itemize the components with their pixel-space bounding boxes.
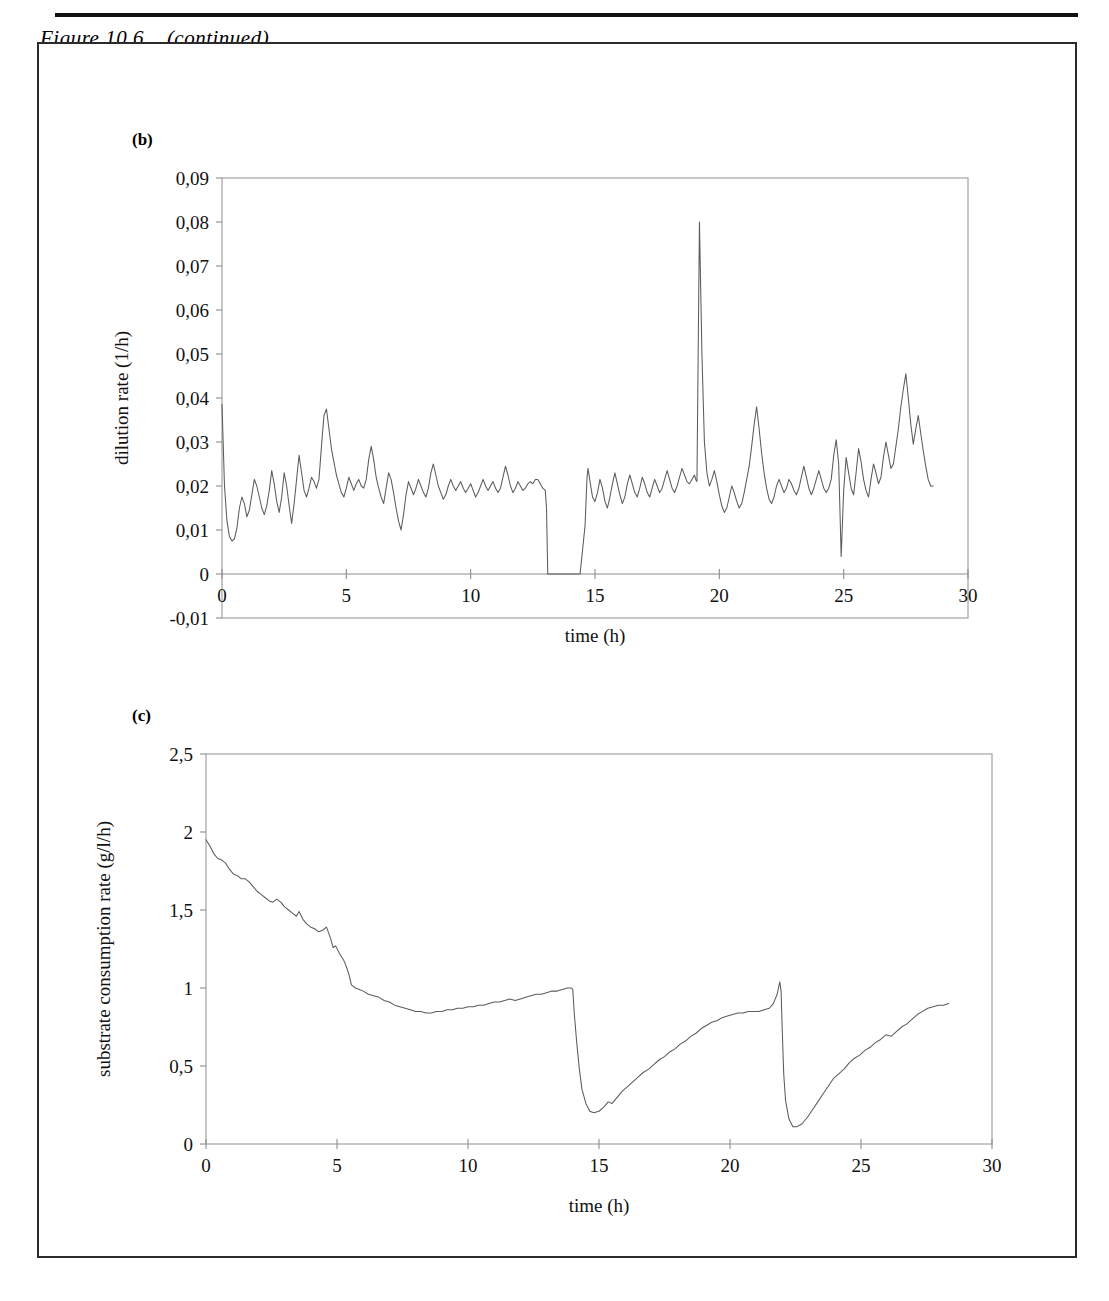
x-tick-label: 20: [710, 585, 729, 606]
x-tick-label: 30: [983, 1155, 1002, 1176]
x-tick-label: 25: [852, 1155, 871, 1176]
y-tick-label: 1: [184, 978, 194, 999]
y-tick-label: 0,06: [176, 300, 209, 321]
header-rule: [55, 13, 1078, 17]
chart-panel-b: -0,0100,010,020,030,040,050,060,070,080,…: [0, 150, 1040, 670]
x-tick-label: 0: [217, 585, 227, 606]
y-tick-label: 0,02: [176, 476, 209, 497]
y-axis-title: substrate consumption rate (g/l/h): [93, 821, 115, 1077]
x-tick-label: 10: [459, 1155, 478, 1176]
x-axis-title: time (h): [569, 1195, 630, 1217]
x-tick-label: 5: [342, 585, 352, 606]
y-axis-title: dilution rate (1/h): [111, 331, 133, 465]
x-tick-label: 0: [201, 1155, 211, 1176]
y-tick-label: -0,01: [169, 608, 209, 629]
data-series-line: [206, 840, 949, 1127]
chart-panel-c: 00,511,522,5051015202530time (h)substrat…: [0, 726, 1040, 1226]
y-tick-label: 0: [184, 1134, 194, 1155]
x-tick-label: 5: [332, 1155, 342, 1176]
x-tick-label: 30: [959, 585, 978, 606]
x-tick-label: 15: [590, 1155, 609, 1176]
chart-panel-b: -0,0100,010,020,030,040,050,060,070,080,…: [0, 150, 1040, 670]
x-tick-label: 20: [721, 1155, 740, 1176]
y-tick-label: 0,04: [176, 388, 210, 409]
y-tick-label: 0,01: [176, 520, 209, 541]
x-axis-title: time (h): [565, 625, 626, 647]
y-tick-label: 0: [200, 564, 210, 585]
data-series-line: [222, 222, 933, 574]
plot-frame: [222, 178, 968, 618]
y-tick-label: 2: [184, 822, 194, 843]
panel-label-b: (b): [132, 130, 153, 150]
x-tick-label: 10: [461, 585, 480, 606]
panel-label-c: (c): [132, 706, 151, 726]
x-tick-label: 25: [834, 585, 853, 606]
y-tick-label: 1,5: [169, 900, 193, 921]
y-tick-label: 0,08: [176, 212, 209, 233]
y-tick-label: 0,03: [176, 432, 209, 453]
x-tick-label: 15: [586, 585, 605, 606]
chart-panel-c: 00,511,522,5051015202530time (h)substrat…: [0, 726, 1040, 1226]
y-tick-label: 0,05: [176, 344, 209, 365]
plot-frame: [206, 754, 992, 1144]
y-tick-label: 2,5: [169, 744, 193, 765]
y-tick-label: 0,5: [169, 1056, 193, 1077]
y-tick-label: 0,09: [176, 168, 209, 189]
y-tick-label: 0,07: [176, 256, 209, 277]
